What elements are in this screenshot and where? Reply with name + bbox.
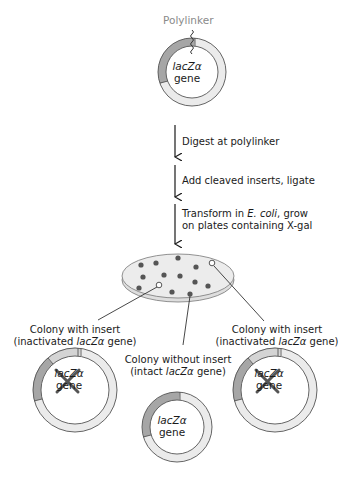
white-colony-right bbox=[209, 260, 215, 266]
right-outcome-label: Colony with insert (inactivated lacZα ge… bbox=[212, 324, 342, 348]
middle-gene-label: lacZα gene bbox=[152, 414, 192, 438]
middle-outcome-label: Colony without insert (intact lacZα gene… bbox=[113, 354, 243, 378]
polylinker-label: Polylinker bbox=[163, 14, 214, 26]
right-gene-label: lacZα gene bbox=[249, 367, 289, 391]
step-2-label: Add cleaved inserts, ligate bbox=[182, 175, 315, 187]
step-1-label: Digest at polylinker bbox=[182, 136, 279, 148]
left-gene-label: lacZα gene bbox=[49, 367, 89, 391]
top-gene-label: lacZα gene bbox=[167, 60, 207, 84]
step-3-label: Transform in E. coli, grow on plates con… bbox=[182, 208, 312, 232]
left-outcome-label: Colony with insert (inactivated lacZα ge… bbox=[10, 324, 140, 348]
white-colony-left bbox=[156, 282, 162, 288]
